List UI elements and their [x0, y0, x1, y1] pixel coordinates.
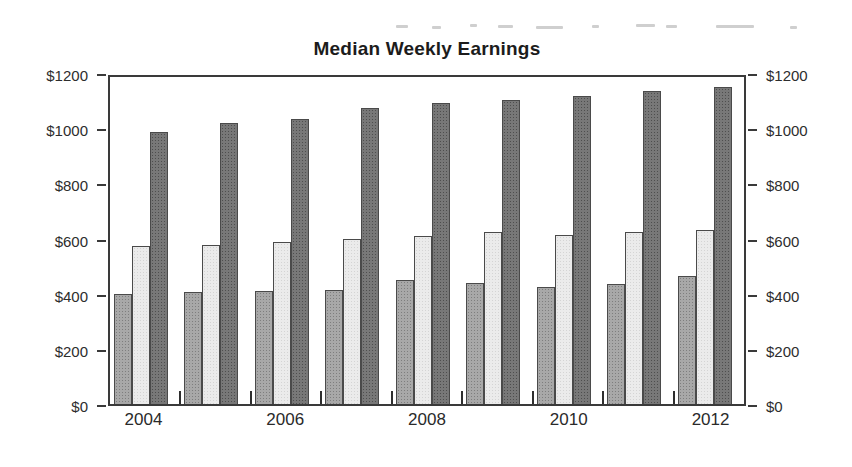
bar-2012-dark-gray-bars — [714, 87, 732, 404]
y-tick-mark-left — [97, 240, 106, 242]
y-tick-label-left: $800 — [55, 177, 88, 194]
bar-2004-medium-gray-bars — [114, 294, 132, 404]
scanned-chart-page: Median Weekly Earnings $1200$1000$800$60… — [0, 0, 852, 467]
scan-artifact-mark — [470, 24, 477, 27]
x-tick-label-2012: 2012 — [692, 410, 730, 430]
bar-2012-medium-gray-bars — [678, 276, 696, 404]
bar-group-2008 — [392, 77, 462, 404]
bar-2006-dark-gray-bars — [291, 119, 309, 404]
y-tick-label-left: $200 — [55, 342, 88, 359]
y-tick-mark-right — [748, 295, 757, 297]
x-axis-boundary-tick — [602, 391, 604, 404]
scan-artifact-mark — [666, 25, 677, 28]
bar-2004-dark-gray-bars — [150, 132, 168, 405]
y-tick-mark-left — [97, 405, 106, 407]
x-axis-boundary-tick — [673, 391, 675, 404]
bar-2007-dark-gray-bars — [361, 108, 379, 404]
x-axis-boundary-tick — [320, 391, 322, 404]
bar-group-2012 — [674, 77, 744, 404]
bar-2008-medium-gray-bars — [396, 280, 414, 404]
bar-2010-light-gray-bars — [555, 235, 573, 404]
y-tick-label-left: $0 — [71, 398, 88, 415]
y-tick-label-left: $1200 — [46, 67, 88, 84]
bar-group-2006 — [251, 77, 321, 404]
y-tick-mark-left — [97, 295, 106, 297]
x-axis-boundary-tick — [532, 391, 534, 404]
y-tick-label-left: $400 — [55, 287, 88, 304]
x-axis-labels: 20042006200820102012 — [108, 410, 746, 436]
bar-2008-light-gray-bars — [414, 236, 432, 404]
y-tick-label-right: $200 — [766, 342, 799, 359]
bar-group-2011 — [603, 77, 673, 404]
y-tick-mark-right — [748, 74, 757, 76]
y-tick-mark-right — [748, 129, 757, 131]
x-tick-label-2006: 2006 — [266, 410, 304, 430]
bar-2008-dark-gray-bars — [432, 103, 450, 404]
bar-2005-light-gray-bars — [202, 245, 220, 404]
y-axis-left: $1200$1000$800$600$400$200$0 — [0, 75, 108, 406]
bar-group-2004 — [110, 77, 180, 404]
bar-2004-light-gray-bars — [132, 246, 150, 404]
bar-2006-medium-gray-bars — [255, 291, 273, 404]
bar-2010-medium-gray-bars — [537, 287, 555, 404]
bar-2006-light-gray-bars — [273, 242, 291, 404]
bar-2007-medium-gray-bars — [325, 290, 343, 404]
y-tick-mark-right — [748, 405, 757, 407]
scan-artifact-mark — [592, 25, 599, 28]
bar-2007-light-gray-bars — [343, 239, 361, 404]
x-axis-boundary-tick — [461, 391, 463, 404]
x-axis-boundary-tick — [250, 391, 252, 404]
y-tick-mark-right — [748, 350, 757, 352]
y-tick-mark-right — [748, 240, 757, 242]
y-tick-mark-left — [97, 129, 106, 131]
y-axis-right: $1200$1000$800$600$400$200$0 — [746, 75, 852, 406]
scan-artifact-mark — [716, 25, 754, 28]
bar-2011-dark-gray-bars — [643, 91, 661, 404]
y-tick-mark-left — [97, 184, 106, 186]
y-tick-mark-right — [748, 184, 757, 186]
bar-2005-dark-gray-bars — [220, 123, 238, 404]
bar-2011-medium-gray-bars — [607, 284, 625, 404]
x-axis-boundary-tick — [391, 391, 393, 404]
scan-artifact-mark — [536, 26, 563, 29]
x-tick-label-2010: 2010 — [550, 410, 588, 430]
y-tick-label-right: $400 — [766, 287, 799, 304]
scan-artifact-mark — [432, 26, 441, 29]
bar-2012-light-gray-bars — [696, 230, 714, 404]
y-tick-mark-left — [97, 350, 106, 352]
y-tick-label-right: $1200 — [766, 67, 808, 84]
bar-group-2009 — [462, 77, 532, 404]
y-tick-label-right: $1000 — [766, 122, 808, 139]
scan-artifact-mark — [498, 25, 513, 28]
y-tick-label-left: $600 — [55, 232, 88, 249]
bar-2005-medium-gray-bars — [184, 292, 202, 404]
chart-title: Median Weekly Earnings — [108, 38, 746, 60]
bar-2009-light-gray-bars — [484, 232, 502, 404]
y-tick-label-right: $800 — [766, 177, 799, 194]
x-tick-label-2004: 2004 — [125, 410, 163, 430]
y-tick-mark-left — [97, 74, 106, 76]
bar-group-2005 — [180, 77, 250, 404]
x-tick-label-2008: 2008 — [408, 410, 446, 430]
x-axis-boundary-tick — [179, 391, 181, 404]
scan-artifact-mark — [396, 25, 408, 28]
bar-2011-light-gray-bars — [625, 232, 643, 404]
bar-group-2010 — [533, 77, 603, 404]
bar-2009-medium-gray-bars — [466, 283, 484, 404]
bar-2010-dark-gray-bars — [573, 96, 591, 404]
bar-2009-dark-gray-bars — [502, 100, 520, 404]
bar-group-2007 — [321, 77, 391, 404]
y-tick-label-right: $0 — [766, 398, 783, 415]
y-tick-label-left: $1000 — [46, 122, 88, 139]
y-tick-label-right: $600 — [766, 232, 799, 249]
plot-area — [108, 75, 746, 406]
scan-artifact-mark — [636, 24, 655, 27]
scan-artifact-mark — [790, 26, 797, 29]
